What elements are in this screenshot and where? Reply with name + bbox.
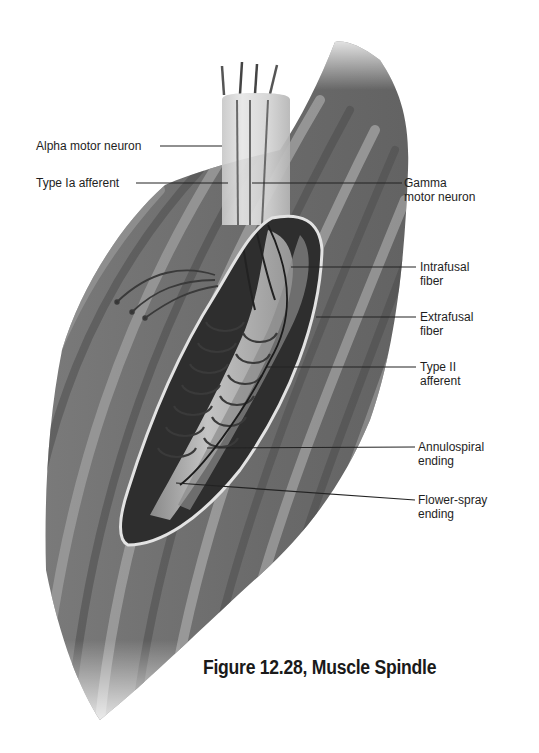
figure-caption: Figure 12.28, Muscle Spindle xyxy=(203,656,436,679)
label-text: fiber xyxy=(420,274,469,288)
nerve-bundle xyxy=(222,62,290,225)
label-text: ending xyxy=(418,454,484,468)
label-annulospiral-ending: Annulospiral ending xyxy=(418,440,484,468)
label-alpha-motor-neuron: Alpha motor neuron xyxy=(36,139,141,153)
label-gamma-motor-neuron: Gamma motor neuron xyxy=(404,176,475,204)
label-text: motor neuron xyxy=(404,190,475,204)
label-text: afferent xyxy=(420,374,460,388)
label-type-ii-afferent: Type II afferent xyxy=(420,360,460,388)
label-extrafusal-fiber: Extrafusal fiber xyxy=(420,310,473,338)
label-intrafusal-fiber: Intrafusal fiber xyxy=(420,260,469,288)
label-text: Annulospiral xyxy=(418,440,484,454)
label-text: Gamma xyxy=(404,176,475,190)
label-flower-spray-ending: Flower-spray ending xyxy=(418,493,487,521)
label-text: Flower-spray xyxy=(418,493,487,507)
label-text: Extrafusal xyxy=(420,310,473,324)
label-type-ia-afferent: Type Ia afferent xyxy=(36,176,119,190)
label-text: Type Ia afferent xyxy=(36,176,119,190)
label-text: ending xyxy=(418,507,487,521)
label-text: Alpha motor neuron xyxy=(36,139,141,153)
label-text: Type II xyxy=(420,360,460,374)
label-text: fiber xyxy=(420,324,473,338)
label-text: Intrafusal xyxy=(420,260,469,274)
